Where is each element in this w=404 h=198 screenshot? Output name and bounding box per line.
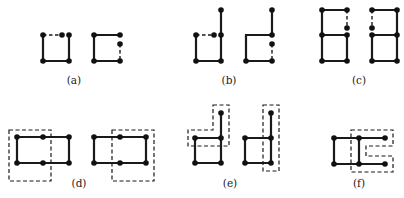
panel-c-right-graph xyxy=(369,7,400,64)
panel-f: (f) xyxy=(331,130,393,189)
panel-e-right-graph xyxy=(242,105,279,171)
panel-a: (a) xyxy=(40,32,123,86)
panel-d: (d) xyxy=(9,130,154,189)
panel-f-graph xyxy=(331,130,393,172)
panel-c: (c) xyxy=(319,7,400,86)
panel-a-left-graph xyxy=(40,32,72,64)
panel-a-right-graph xyxy=(91,32,123,64)
panel-b-left-graph xyxy=(193,7,224,64)
figure-canvas: (a) (b) xyxy=(0,0,404,198)
panel-d-right-graph xyxy=(91,130,154,181)
panel-d-label: (d) xyxy=(72,177,87,189)
panel-e: (e) xyxy=(188,105,279,189)
panel-b-label: (b) xyxy=(222,74,237,86)
panel-a-label: (a) xyxy=(67,74,81,86)
panel-b: (b) xyxy=(193,7,275,86)
panel-b-right-graph xyxy=(243,7,275,64)
panel-e-left-graph xyxy=(188,105,229,166)
panel-c-left-graph xyxy=(319,7,350,64)
panel-d-left-graph xyxy=(9,130,72,181)
panel-c-label: (c) xyxy=(352,74,366,86)
panel-f-label: (f) xyxy=(353,177,365,189)
panel-e-label: (e) xyxy=(223,177,237,189)
